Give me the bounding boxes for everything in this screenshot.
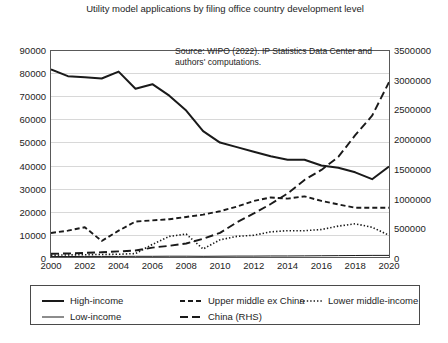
x-tick-label: 2006 bbox=[142, 260, 163, 271]
legend-swatch-icon bbox=[179, 312, 203, 322]
legend-label: Lower middle-income bbox=[328, 295, 418, 306]
legend-item[interactable]: Low-income bbox=[41, 311, 121, 322]
x-tick-label: 2014 bbox=[277, 260, 298, 271]
source-annotation: Source: WIPO (2022). IP Statistics Data … bbox=[175, 46, 380, 68]
y-tick-label-right: 2000000 bbox=[394, 134, 431, 145]
x-tick-label: 2016 bbox=[311, 260, 332, 271]
series-line bbox=[51, 255, 389, 256]
legend-swatch-icon bbox=[299, 296, 323, 306]
series-line bbox=[51, 69, 389, 179]
y-axis-right: 0500000100000015000002000000250000030000… bbox=[394, 50, 448, 258]
y-tick-label-left: 50000 bbox=[20, 137, 46, 148]
legend-label: High-income bbox=[70, 295, 123, 306]
legend-label: Low-income bbox=[70, 311, 121, 322]
y-tick-label-left: 10000 bbox=[20, 229, 46, 240]
legend-item[interactable]: High-income bbox=[41, 295, 123, 306]
x-axis: 2000200220042006200820102012201420162018… bbox=[50, 260, 390, 276]
y-tick-label-right: 3500000 bbox=[394, 45, 431, 56]
y-tick-label-left: 90000 bbox=[20, 45, 46, 56]
series-line bbox=[51, 196, 389, 241]
series-line bbox=[51, 224, 389, 255]
legend-swatch-icon bbox=[179, 296, 203, 306]
y-tick-label-right: 2500000 bbox=[394, 104, 431, 115]
y-tick-label-left: 70000 bbox=[20, 91, 46, 102]
x-tick-label: 2018 bbox=[345, 260, 366, 271]
chart-legend: High-incomeUpper middle ex ChinaLower mi… bbox=[30, 285, 420, 325]
legend-item[interactable]: Upper middle ex China bbox=[179, 295, 305, 306]
y-tick-label-right: 500000 bbox=[394, 223, 426, 234]
y-tick-label-right: 3000000 bbox=[394, 74, 431, 85]
y-tick-label-right: 1000000 bbox=[394, 193, 431, 204]
y-tick-label-left: 30000 bbox=[20, 183, 46, 194]
y-tick-label-left: 80000 bbox=[20, 68, 46, 79]
plot-area bbox=[50, 50, 390, 258]
legend-swatch-icon bbox=[41, 296, 65, 306]
x-tick-label: 2000 bbox=[40, 260, 61, 271]
y-tick-label-right: 1500000 bbox=[394, 163, 431, 174]
x-tick-label: 2020 bbox=[378, 260, 399, 271]
x-tick-label: 2010 bbox=[209, 260, 230, 271]
x-tick-label: 2012 bbox=[243, 260, 264, 271]
legend-item[interactable]: China (RHS) bbox=[179, 311, 262, 322]
x-tick-label: 2002 bbox=[74, 260, 95, 271]
legend-item[interactable]: Lower middle-income bbox=[299, 295, 418, 306]
legend-label: Upper middle ex China bbox=[208, 295, 305, 306]
x-tick-label: 2004 bbox=[108, 260, 129, 271]
legend-label: China (RHS) bbox=[208, 311, 262, 322]
x-tick-label: 2008 bbox=[176, 260, 197, 271]
y-tick-label-left: 60000 bbox=[20, 114, 46, 125]
y-tick-label-left: 20000 bbox=[20, 206, 46, 217]
legend-swatch-icon bbox=[41, 312, 65, 322]
plot-lines bbox=[51, 51, 389, 257]
chart-figure: Utility model applications by filing off… bbox=[0, 0, 448, 343]
y-tick-label-left: 40000 bbox=[20, 160, 46, 171]
chart-title: Utility model applications by filing off… bbox=[60, 3, 390, 16]
y-axis-left: 0100002000030000400005000060000700008000… bbox=[0, 50, 46, 258]
